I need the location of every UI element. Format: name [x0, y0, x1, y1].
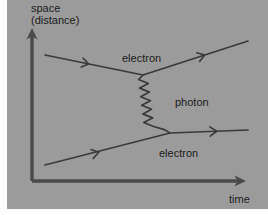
electron-lower-line — [45, 127, 248, 165]
axis-x — [32, 176, 246, 187]
electron-lower-path — [45, 130, 248, 165]
axis-x-label: time — [229, 193, 250, 205]
photon-line — [139, 75, 170, 133]
diagram-plot-area: space(distance) time electron photon ele… — [7, 0, 268, 209]
axis-y-label-line2: (distance) — [31, 14, 79, 26]
label-photon: photon — [175, 96, 209, 108]
photon-zigzag-path — [139, 75, 170, 133]
label-electron-outgoing: electron — [159, 147, 198, 159]
label-electron-incoming: electron — [122, 52, 161, 64]
feynman-diagram-figure: space(distance) time electron photon ele… — [0, 0, 268, 215]
diagram-canvas — [7, 0, 268, 209]
axis-y — [27, 28, 38, 181]
axis-y-label: space(distance) — [31, 2, 79, 27]
axis-y-label-line1: space — [31, 2, 60, 14]
